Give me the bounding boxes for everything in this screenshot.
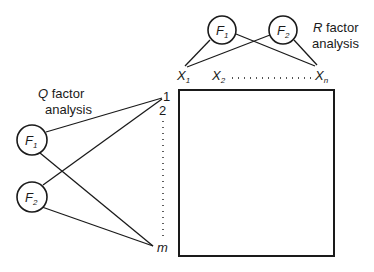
col-label-x2: X2 (211, 68, 226, 85)
col-label-x1: X1 (176, 68, 190, 85)
edge-rf1-x1 (185, 40, 210, 66)
data-matrix-box (179, 90, 334, 256)
r-factor-title-line2: analysis (312, 36, 359, 51)
row-label-2: 2 (159, 103, 166, 118)
r-factor-title-line1: R factor (313, 20, 359, 35)
row-label-1: 1 (163, 89, 170, 104)
r-factor-analysis-group: F1 F2 X1 X2 Xn R factor analysis (176, 16, 359, 85)
edge-qf1-rowm (40, 153, 153, 246)
q-r-factor-analysis-diagram: F1 F2 X1 X2 Xn R factor analysis F1 F2 1… (0, 0, 374, 272)
q-factor-title-line2: analysis (45, 102, 92, 117)
edge-qf2-rowm (42, 207, 153, 246)
q-factor-analysis-group: F1 F2 1 2 m Q factor analysis (17, 86, 170, 255)
row-label-m: m (157, 240, 168, 255)
q-factor-title-line1: Q factor (38, 86, 85, 101)
col-label-xn: Xn (314, 68, 329, 85)
